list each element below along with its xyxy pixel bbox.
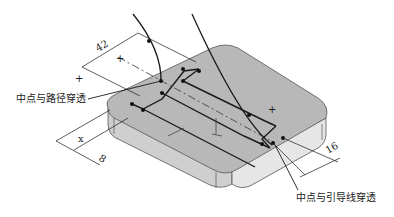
dimension-16-label: 16 <box>324 140 341 156</box>
cross-marker-right: + <box>268 104 276 115</box>
dimension-x-label: x <box>78 133 84 144</box>
cross-marker: + <box>75 73 83 84</box>
left-callout-label: 中点与路径穿透 <box>16 92 86 104</box>
cross-marker-top: + <box>116 53 124 64</box>
right-callout-label: 中点与引导线穿透 <box>296 191 376 203</box>
guide-curve-left <box>133 14 161 82</box>
sweep-diagram: + + + 42 x 8 16 中点与路径穿透 中点与引导线穿透 <box>0 0 394 217</box>
dimension-8-label: 8 <box>97 152 108 165</box>
